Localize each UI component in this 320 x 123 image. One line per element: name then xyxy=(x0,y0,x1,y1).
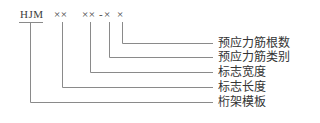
code-prefix: HJM xyxy=(20,8,44,21)
code-dash: - xyxy=(99,8,103,21)
code-length: ×× xyxy=(54,8,67,21)
code-tendon-type: × xyxy=(104,8,111,21)
code-tendon-count: × xyxy=(117,8,124,21)
leader-prefix xyxy=(31,23,214,103)
label-length: 标志长度 xyxy=(218,80,266,94)
label-width: 标志宽度 xyxy=(218,65,266,79)
leader-tendon-type xyxy=(110,22,214,58)
label-prefix: 桁架模板 xyxy=(218,95,266,109)
leader-length xyxy=(63,22,214,88)
code-width: ×× xyxy=(82,8,95,21)
label-tendon-type: 预应力筋类别 xyxy=(218,50,290,64)
label-tendon-count: 预应力筋根数 xyxy=(218,36,290,50)
leader-width xyxy=(91,22,214,73)
leader-tendon-count xyxy=(123,22,214,44)
